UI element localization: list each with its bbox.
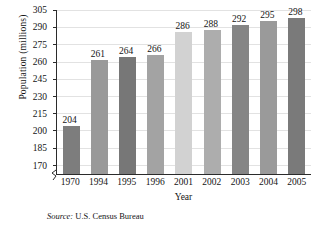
plot-area: 170185200215230245260275290305 204261264… (56, 10, 311, 175)
bar-value-label: 292 (232, 14, 246, 24)
x-axis-title: Year (56, 192, 311, 202)
bar: 264 (119, 57, 136, 174)
bar-slot: 295 (255, 10, 283, 174)
bar: 266 (147, 55, 164, 174)
y-axis-tick-label: 245 (33, 74, 47, 84)
bar-value-label: 204 (63, 115, 77, 125)
bar-slot: 264 (113, 10, 141, 174)
y-axis-tick-label: 230 (33, 92, 47, 102)
y-axis-tick-label: 185 (33, 143, 47, 153)
bar-slot: 292 (226, 10, 254, 174)
bar-value-label: 298 (288, 7, 302, 17)
x-axis-tick-label: 1970 (56, 177, 84, 187)
bar-slot: 298 (283, 10, 311, 174)
x-axis-tick-labels: 197019941995199620012002200320042005 (56, 177, 311, 187)
x-axis-tick-label: 2004 (254, 177, 282, 187)
bar: 295 (260, 21, 277, 174)
y-axis-tick-label: 275 (33, 40, 47, 50)
source-prefix: Source: (47, 211, 73, 221)
x-axis-tick-label: 2005 (283, 177, 311, 187)
x-axis-tick-label: 1996 (141, 177, 169, 187)
bar: 204 (63, 126, 80, 174)
bar-slot: 204 (57, 10, 85, 174)
bar-slot: 288 (198, 10, 226, 174)
bar-value-label: 288 (204, 19, 218, 29)
x-axis-tick-label: 2001 (169, 177, 197, 187)
y-axis-tick-label: 215 (33, 109, 47, 119)
source-text: U.S. Census Bureau (75, 211, 143, 221)
bar: 298 (288, 18, 305, 174)
bar-slot: 261 (85, 10, 113, 174)
bar: 292 (232, 25, 249, 174)
x-axis-tick-label: 1995 (113, 177, 141, 187)
y-axis-tick-label: 200 (33, 126, 47, 136)
bar-series: 204261264266286288292295298 (57, 10, 311, 174)
bar-value-label: 264 (119, 46, 133, 56)
bar-value-label: 295 (260, 10, 274, 20)
population-bar-chart: Population (millions) 170185200215230245… (0, 0, 321, 233)
bar-slot: 286 (170, 10, 198, 174)
y-axis-title: Population (millions) (18, 0, 28, 132)
bar-value-label: 261 (91, 49, 105, 59)
x-axis-tick-label: 2003 (226, 177, 254, 187)
x-axis-tick-label: 2002 (198, 177, 226, 187)
bar-slot: 266 (142, 10, 170, 174)
source-note: Source: U.S. Census Bureau (47, 211, 144, 221)
bar-value-label: 266 (147, 44, 161, 54)
y-axis-tick-label: 260 (33, 57, 47, 67)
y-axis-tick-label: 290 (33, 22, 47, 32)
bar: 286 (175, 32, 192, 174)
bar: 261 (91, 60, 108, 174)
x-axis-tick-label: 1994 (84, 177, 112, 187)
y-axis-tick-label: 170 (33, 161, 47, 171)
bar-value-label: 286 (175, 21, 189, 31)
bar: 288 (204, 30, 221, 175)
y-axis-tick-label: 305 (33, 5, 47, 15)
